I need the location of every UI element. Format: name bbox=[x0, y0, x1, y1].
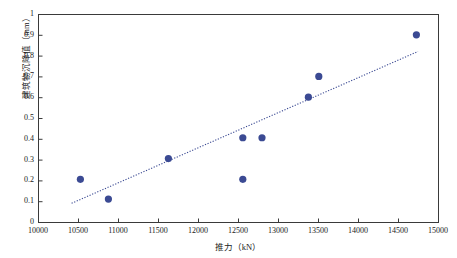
data-point bbox=[305, 94, 312, 101]
x-tick-label: 13000 bbox=[256, 227, 300, 235]
x-tick-label: 14000 bbox=[336, 227, 380, 235]
data-point bbox=[239, 134, 246, 141]
data-point bbox=[413, 31, 420, 38]
y-tick-label: 0.8 bbox=[8, 52, 34, 60]
x-tick-label: 12000 bbox=[176, 227, 220, 235]
x-tick-label: 11500 bbox=[136, 227, 180, 235]
y-tick-label: 0.6 bbox=[8, 93, 34, 101]
data-point bbox=[239, 176, 246, 183]
x-tick-label: 13500 bbox=[296, 227, 340, 235]
plot-canvas bbox=[0, 0, 457, 258]
x-tick-label: 10500 bbox=[56, 227, 100, 235]
data-point bbox=[315, 73, 322, 80]
y-tick-label: 0.9 bbox=[8, 31, 34, 39]
y-tick-label: 0.7 bbox=[8, 72, 34, 80]
y-tick-label: 0 bbox=[8, 218, 34, 226]
x-tick-label: 11000 bbox=[96, 227, 140, 235]
x-tick-label: 12500 bbox=[216, 227, 260, 235]
x-tick-label: 10000 bbox=[16, 227, 60, 235]
y-tick-label: 0.5 bbox=[8, 114, 34, 122]
x-tick-label: 15000 bbox=[416, 227, 457, 235]
data-point bbox=[165, 155, 172, 162]
data-point bbox=[105, 196, 112, 203]
plot-frame bbox=[39, 15, 439, 223]
y-tick-label: 0.1 bbox=[8, 197, 34, 205]
scatter-chart: 建筑物沉降值（mm） 推力（kN） 00.10.20.30.40.50.60.7… bbox=[0, 0, 457, 258]
y-tick-label: 1 bbox=[8, 10, 34, 18]
y-tick-label: 0.2 bbox=[8, 176, 34, 184]
y-tick-label: 0.4 bbox=[8, 135, 34, 143]
x-tick-label: 14500 bbox=[376, 227, 420, 235]
data-point bbox=[77, 176, 84, 183]
data-point bbox=[258, 134, 265, 141]
y-tick-label: 0.3 bbox=[8, 156, 34, 164]
